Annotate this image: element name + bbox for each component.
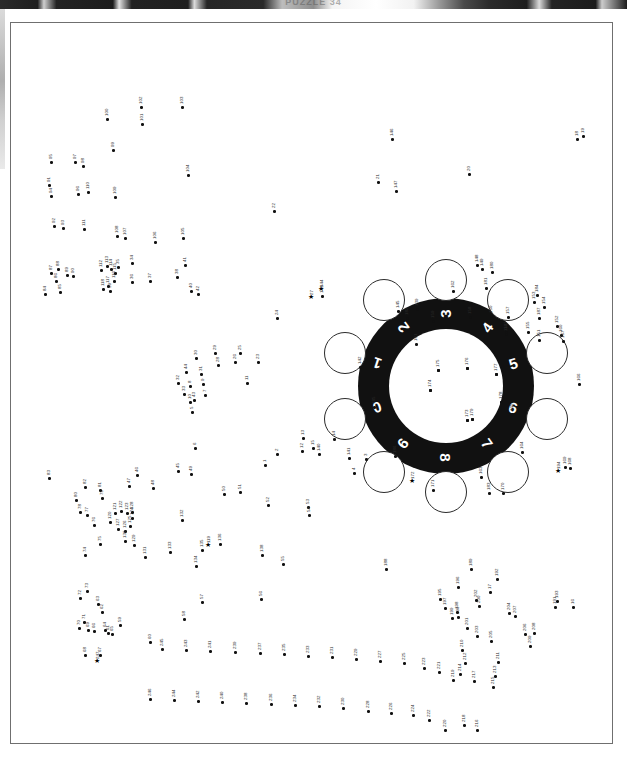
puzzle-dot-label: 201 — [465, 618, 469, 625]
puzzle-dot — [131, 281, 134, 284]
puzzle-dot — [77, 193, 80, 196]
dial-inner-dot — [471, 418, 474, 421]
puzzle-dot — [109, 290, 112, 293]
puzzle-dot — [131, 511, 134, 514]
puzzle-dot-label: 121 — [113, 503, 117, 510]
puzzle-dot — [457, 586, 460, 589]
puzzle-dot-label: 122 — [119, 501, 123, 508]
puzzle-dot-label: 66 — [92, 623, 96, 628]
puzzle-dot — [154, 241, 157, 244]
puzzle-dot — [492, 686, 495, 689]
puzzle-dot-label: 91 — [47, 177, 51, 182]
puzzle-dot-label: 175 — [436, 360, 440, 367]
puzzle-dot-label: 81 — [98, 482, 102, 487]
puzzle-dot-label: 104 — [186, 165, 190, 172]
puzzle-dot — [129, 525, 132, 528]
puzzle-dot-label: 12 — [300, 443, 304, 448]
puzzle-dot — [149, 698, 152, 701]
puzzle-dot — [353, 472, 356, 475]
puzzle-dot — [113, 280, 116, 283]
puzzle-dot-label: 151 — [537, 330, 541, 337]
puzzle-dot — [505, 333, 508, 336]
puzzle-dot — [195, 357, 198, 360]
puzzle-dot — [379, 660, 382, 663]
puzzle-dot-label: 244 — [172, 690, 176, 697]
finger-hole-5[interactable] — [526, 332, 568, 374]
puzzle-dot-label: 230 — [341, 698, 345, 705]
puzzle-dot-label: 163 — [479, 467, 483, 474]
finger-hole-6[interactable] — [526, 398, 568, 440]
puzzle-dot — [202, 383, 205, 386]
puzzle-dot — [50, 272, 53, 275]
puzzle-dot-label: 177 — [494, 364, 498, 371]
finger-hole-8[interactable] — [425, 471, 467, 513]
puzzle-dot-label: 8 — [188, 381, 192, 383]
puzzle-dot-label: 141 — [347, 448, 351, 455]
puzzle-dot — [184, 264, 187, 267]
finger-hole-9[interactable] — [363, 451, 405, 493]
puzzle-dot-label: 218 — [462, 715, 466, 722]
puzzle-dot-label: 157 — [506, 307, 510, 314]
puzzle-dot-label: 110 — [86, 182, 90, 189]
puzzle-dot — [464, 662, 467, 665]
puzzle-dot — [529, 645, 532, 648]
puzzle-dot-label: 179 — [470, 409, 474, 416]
puzzle-dot-label: 184 — [535, 285, 539, 292]
puzzle-dot — [569, 467, 572, 470]
finger-hole-7[interactable] — [487, 451, 529, 493]
puzzle-dot — [395, 190, 398, 193]
puzzle-dot-label: 134 — [194, 556, 198, 563]
puzzle-title: PUZZLE 34 — [0, 0, 627, 7]
finger-hole-4[interactable] — [487, 279, 529, 321]
puzzle-dot — [141, 123, 144, 126]
puzzle-dot-label: 245 — [160, 639, 164, 646]
puzzle-dot — [451, 617, 454, 620]
puzzle-dot-label: 209 — [528, 636, 532, 643]
puzzle-dot — [302, 437, 305, 440]
puzzle-dot-label: 108 — [115, 226, 119, 233]
puzzle-dot — [114, 196, 117, 199]
puzzle-dot — [112, 149, 115, 152]
puzzle-dot-label: 4 — [352, 468, 356, 470]
puzzle-dot-label: 189 — [469, 559, 473, 566]
puzzle-dot — [367, 710, 370, 713]
puzzle-dot — [377, 181, 380, 184]
puzzle-dot — [219, 543, 222, 546]
puzzle-dot — [480, 476, 483, 479]
puzzle-dot — [117, 528, 120, 531]
puzzle-dot-label: 129 — [132, 535, 136, 542]
puzzle-dot-label: 178 — [499, 392, 503, 399]
puzzle-dot — [140, 106, 143, 109]
puzzle-dot-label: 167 — [561, 331, 565, 338]
puzzle-dot-label: 145 — [396, 301, 400, 308]
puzzle-dot-label: 210 — [460, 640, 464, 647]
puzzle-dot-label: 85 — [58, 284, 62, 289]
puzzle-dot — [406, 317, 409, 320]
puzzle-dot-label: 118 — [101, 279, 105, 286]
puzzle-dot-label: 127 — [116, 519, 120, 526]
puzzle-dot-label: 26 — [233, 354, 237, 359]
puzzle-dot-label: 11 — [245, 375, 249, 380]
puzzle-dot-label: 231 — [330, 647, 334, 654]
puzzle-dot — [99, 489, 102, 492]
puzzle-dot — [562, 340, 565, 343]
puzzle-dot — [538, 317, 541, 320]
puzzle-dot — [273, 210, 276, 213]
puzzle-dot-label: 214 — [458, 664, 462, 671]
puzzle-dot — [189, 401, 192, 404]
puzzle-dot-label: 71 — [82, 614, 86, 619]
puzzle-dot — [209, 650, 212, 653]
finger-hole-3[interactable] — [425, 259, 467, 301]
puzzle-dot-label: 89 — [65, 267, 69, 272]
puzzle-dot — [197, 700, 200, 703]
puzzle-dot — [214, 352, 217, 355]
puzzle-dot-label: 211 — [496, 652, 500, 659]
scan-header-band: PUZZLE 34 — [0, 0, 627, 9]
puzzle-dot-label: 228 — [366, 701, 370, 708]
puzzle-page: PUZZLE 34 1234567890 1234567891011121314… — [0, 0, 627, 767]
puzzle-dot — [114, 512, 117, 515]
puzzle-dot — [128, 485, 131, 488]
puzzle-dot — [432, 320, 435, 323]
puzzle-dot — [572, 606, 575, 609]
puzzle-dot — [444, 729, 447, 732]
